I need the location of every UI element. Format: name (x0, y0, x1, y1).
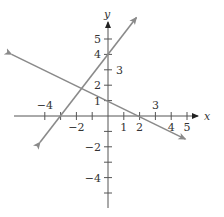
axes (14, 22, 198, 208)
y-tick-label: 3 (116, 64, 123, 77)
x-tick-label: 4 (168, 121, 175, 134)
y-tick-label: 2 (94, 79, 101, 92)
y-axis-label: y (103, 8, 111, 21)
x-tick-label: −2 (68, 121, 84, 134)
x-tick-label: 1 (120, 121, 127, 134)
x-axis-label: x (204, 110, 211, 123)
y-tick-label: 5 (94, 33, 101, 46)
coordinate-graph: −4−21234554321−2−4 x y (0, 0, 224, 217)
x-tick-label: 5 (184, 121, 191, 134)
y-tick-label: 4 (94, 48, 101, 61)
x-tick-label: 3 (152, 99, 159, 112)
x-tick-label: −4 (37, 99, 53, 112)
x-tick-label: 2 (136, 121, 143, 134)
tick-labels: −4−21234554321−2−4 (37, 33, 191, 185)
y-tick-label: −4 (85, 172, 101, 185)
y-tick-label: 1 (94, 95, 101, 108)
y-tick-label: −2 (85, 141, 101, 154)
